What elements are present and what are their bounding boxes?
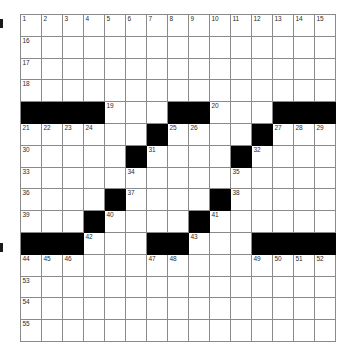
- grid-cell[interactable]: [84, 146, 105, 168]
- grid-cell[interactable]: [105, 255, 126, 277]
- grid-cell[interactable]: [126, 298, 147, 320]
- grid-cell[interactable]: [315, 189, 336, 211]
- grid-cell[interactable]: [315, 146, 336, 168]
- grid-cell[interactable]: [210, 80, 231, 102]
- grid-cell[interactable]: 6: [126, 15, 147, 37]
- grid-cell[interactable]: 44: [21, 255, 42, 277]
- grid-cell[interactable]: 1: [21, 15, 42, 37]
- grid-cell[interactable]: [231, 277, 252, 299]
- grid-cell[interactable]: [42, 298, 63, 320]
- grid-cell[interactable]: [210, 146, 231, 168]
- grid-cell[interactable]: 49: [252, 255, 273, 277]
- grid-cell[interactable]: [294, 168, 315, 190]
- grid-cell[interactable]: [63, 59, 84, 81]
- grid-cell[interactable]: [189, 189, 210, 211]
- grid-cell[interactable]: 37: [126, 189, 147, 211]
- grid-cell[interactable]: [210, 168, 231, 190]
- grid-cell[interactable]: [168, 320, 189, 342]
- grid-cell[interactable]: [231, 320, 252, 342]
- grid-cell[interactable]: [168, 146, 189, 168]
- grid-cell[interactable]: [189, 146, 210, 168]
- grid-cell[interactable]: 21: [21, 124, 42, 146]
- grid-cell[interactable]: 45: [42, 255, 63, 277]
- grid-cell[interactable]: [252, 189, 273, 211]
- grid-cell[interactable]: 39: [21, 211, 42, 233]
- grid-cell[interactable]: 22: [42, 124, 63, 146]
- grid-cell[interactable]: [210, 320, 231, 342]
- grid-cell[interactable]: [42, 277, 63, 299]
- grid-cell[interactable]: [105, 124, 126, 146]
- grid-cell[interactable]: [105, 298, 126, 320]
- grid-cell[interactable]: [42, 80, 63, 102]
- grid-cell[interactable]: [252, 320, 273, 342]
- grid-cell[interactable]: [84, 298, 105, 320]
- grid-cell[interactable]: [63, 298, 84, 320]
- grid-cell[interactable]: [273, 298, 294, 320]
- grid-cell[interactable]: 26: [189, 124, 210, 146]
- grid-cell[interactable]: [147, 168, 168, 190]
- grid-cell[interactable]: 48: [168, 255, 189, 277]
- grid-cell[interactable]: [189, 59, 210, 81]
- grid-cell[interactable]: [252, 211, 273, 233]
- grid-cell[interactable]: [147, 102, 168, 124]
- grid-cell[interactable]: [189, 320, 210, 342]
- grid-cell[interactable]: 16: [21, 37, 42, 59]
- grid-cell[interactable]: [315, 80, 336, 102]
- crossword-grid[interactable]: 1234567891011121314151617181920212223242…: [20, 14, 336, 342]
- grid-cell[interactable]: [168, 298, 189, 320]
- grid-cell[interactable]: 24: [84, 124, 105, 146]
- grid-cell[interactable]: [63, 211, 84, 233]
- grid-cell[interactable]: [147, 59, 168, 81]
- grid-cell[interactable]: 8: [168, 15, 189, 37]
- grid-cell[interactable]: [210, 298, 231, 320]
- grid-cell[interactable]: [42, 59, 63, 81]
- grid-cell[interactable]: 17: [21, 59, 42, 81]
- grid-cell[interactable]: 43: [189, 233, 210, 255]
- grid-cell[interactable]: 32: [252, 146, 273, 168]
- grid-cell[interactable]: [105, 277, 126, 299]
- grid-cell[interactable]: 9: [189, 15, 210, 37]
- grid-cell[interactable]: [189, 37, 210, 59]
- grid-cell[interactable]: [252, 80, 273, 102]
- grid-cell[interactable]: [147, 320, 168, 342]
- grid-cell[interactable]: [273, 59, 294, 81]
- grid-cell[interactable]: [147, 37, 168, 59]
- grid-cell[interactable]: 42: [84, 233, 105, 255]
- grid-cell[interactable]: [126, 37, 147, 59]
- grid-cell[interactable]: [210, 233, 231, 255]
- grid-cell[interactable]: 11: [231, 15, 252, 37]
- grid-cell[interactable]: [126, 255, 147, 277]
- grid-cell[interactable]: [252, 298, 273, 320]
- grid-cell[interactable]: [147, 189, 168, 211]
- grid-cell[interactable]: [273, 168, 294, 190]
- grid-cell[interactable]: 30: [21, 146, 42, 168]
- grid-cell[interactable]: [294, 80, 315, 102]
- grid-cell[interactable]: [252, 37, 273, 59]
- grid-cell[interactable]: [315, 320, 336, 342]
- grid-cell[interactable]: 15: [315, 15, 336, 37]
- grid-cell[interactable]: 25: [168, 124, 189, 146]
- grid-cell[interactable]: [105, 80, 126, 102]
- grid-cell[interactable]: [294, 37, 315, 59]
- grid-cell[interactable]: [315, 37, 336, 59]
- grid-cell[interactable]: [105, 233, 126, 255]
- grid-cell[interactable]: 13: [273, 15, 294, 37]
- grid-cell[interactable]: [189, 80, 210, 102]
- grid-cell[interactable]: [252, 168, 273, 190]
- grid-cell[interactable]: [42, 37, 63, 59]
- grid-cell[interactable]: [63, 37, 84, 59]
- grid-cell[interactable]: 52: [315, 255, 336, 277]
- grid-cell[interactable]: [84, 189, 105, 211]
- grid-cell[interactable]: 38: [231, 189, 252, 211]
- grid-cell[interactable]: [231, 298, 252, 320]
- grid-cell[interactable]: [315, 168, 336, 190]
- grid-cell[interactable]: [294, 298, 315, 320]
- grid-cell[interactable]: [231, 59, 252, 81]
- grid-cell[interactable]: [273, 189, 294, 211]
- grid-cell[interactable]: [84, 168, 105, 190]
- grid-cell[interactable]: [84, 37, 105, 59]
- grid-cell[interactable]: 4: [84, 15, 105, 37]
- grid-cell[interactable]: [42, 211, 63, 233]
- grid-cell[interactable]: 5: [105, 15, 126, 37]
- grid-cell[interactable]: [315, 211, 336, 233]
